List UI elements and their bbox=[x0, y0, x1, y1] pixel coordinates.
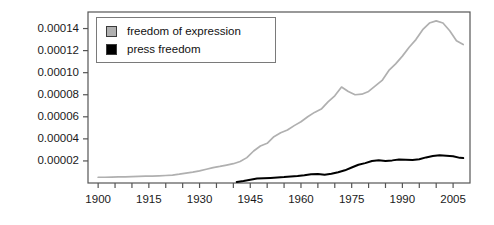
x-axis-ticks bbox=[98, 183, 453, 188]
y-tick-label: 0.00012 bbox=[10, 44, 79, 56]
y-tick-label: 0.00014 bbox=[10, 22, 79, 34]
legend-label: press freedom bbox=[127, 44, 201, 55]
legend-item-press-freedom: press freedom bbox=[106, 40, 201, 58]
y-tick-label: 0.00004 bbox=[10, 132, 79, 144]
chart-container: 0.000020.000040.000060.000080.000100.000… bbox=[0, 0, 494, 225]
y-tick-label: 0.00010 bbox=[10, 66, 79, 78]
y-tick-label: 0.00006 bbox=[10, 110, 79, 122]
legend-swatch-icon bbox=[106, 26, 117, 37]
x-tick-label: 2005 bbox=[423, 193, 483, 205]
series-line-press-freedom bbox=[237, 155, 463, 182]
legend-label: freedom of expression bbox=[127, 26, 241, 37]
y-axis-ticks bbox=[83, 29, 88, 161]
chart-legend: freedom of expression press freedom bbox=[96, 17, 276, 63]
legend-item-freedom-of-expression: freedom of expression bbox=[106, 22, 241, 40]
y-tick-label: 0.00002 bbox=[10, 154, 79, 166]
y-tick-label: 0.00008 bbox=[10, 88, 79, 100]
legend-swatch-icon bbox=[106, 44, 117, 55]
